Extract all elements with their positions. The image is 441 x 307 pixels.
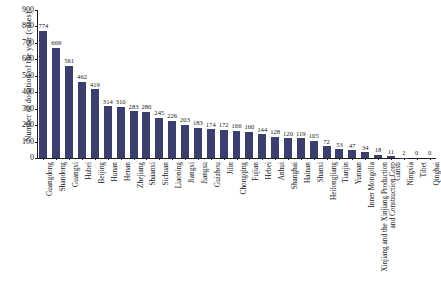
x-axis-tick-label: Chongqing: [240, 162, 248, 194]
bar-item: 105: [310, 10, 318, 158]
bar-rect: [181, 125, 189, 158]
bar-value-label: 172: [219, 122, 229, 129]
bar-rect: [310, 141, 318, 158]
bar-value-label: 2: [402, 150, 405, 157]
bar-item: 0: [426, 10, 434, 158]
bar-rect: [78, 82, 86, 158]
x-axis-tick-label: Anhui: [278, 162, 286, 180]
x-axis-tick-label: Inner Mongolia: [368, 162, 376, 208]
bar-item: 0: [413, 10, 421, 158]
x-axis-tick-label: Tianjin: [342, 162, 350, 183]
bar-item: 18: [374, 10, 382, 158]
x-axis-tick-mark: [134, 158, 135, 160]
bar-value-label: 11: [388, 149, 394, 156]
x-axis-tick-label: Heilongjiang: [330, 162, 338, 200]
bar-value-label: 160: [244, 124, 254, 131]
bar-item: 183: [194, 10, 202, 158]
bar-item: 53: [335, 10, 343, 158]
x-axis-tick-label: Shanxi: [317, 162, 325, 182]
x-axis-tick-label: Ningxia: [407, 162, 415, 186]
bar-value-label: 0: [428, 150, 431, 157]
bar-value-label: 203: [180, 117, 190, 124]
bar-rect: [91, 89, 99, 158]
x-axis-tick-label: Gansu: [394, 162, 402, 181]
x-axis-tick-label: Yunnan: [355, 162, 363, 184]
bar-item: 166: [233, 10, 241, 158]
bar-rect: [297, 138, 305, 158]
bar-rect: [65, 66, 73, 158]
x-axis-tick-mark: [327, 158, 328, 160]
y-axis-tick-label: 600: [22, 55, 34, 63]
bar-rect: [52, 48, 60, 158]
bar-value-label: 669: [51, 40, 61, 47]
bar-value-label: 34: [362, 145, 369, 152]
bar-item: 11: [387, 10, 395, 158]
bar-item: 203: [181, 10, 189, 158]
bar-value-label: 462: [77, 74, 87, 81]
bar-item: 128: [271, 10, 279, 158]
y-axis-tick-mark: [35, 142, 37, 143]
bar-item: 283: [130, 10, 138, 158]
x-axis-tick-label: Hubei: [85, 162, 93, 180]
bar-rect: [194, 128, 202, 158]
x-axis-tick-label: Shaanxi: [149, 162, 157, 186]
x-axis-tick-mark: [417, 158, 418, 160]
y-axis-tick-mark: [35, 43, 37, 44]
x-axis-tick-mark: [108, 158, 109, 160]
bar-value-label: 0: [415, 150, 418, 157]
bar-rect: [335, 149, 343, 158]
bar-rect: [271, 137, 279, 158]
x-axis-tick-label: Beijing: [98, 162, 106, 184]
plot-area: 0100200300400500600700800900 77466956146…: [37, 10, 436, 158]
x-axis-tick-mark: [211, 158, 212, 160]
x-axis-tick-label: Shanghai: [291, 162, 299, 189]
x-axis-tick-mark: [391, 158, 392, 160]
x-axis-tick-mark: [262, 158, 263, 160]
x-axis-tick-mark: [43, 158, 44, 160]
bar-rect: [117, 107, 125, 158]
y-axis-tick-label: 400: [22, 88, 34, 96]
bar-value-label: 128: [270, 129, 280, 136]
y-axis-tick-mark: [35, 59, 37, 60]
bar-value-label: 47: [349, 143, 356, 150]
bar-rect: [348, 150, 356, 158]
bar-rect: [323, 146, 331, 158]
bar-value-label: 774: [38, 23, 48, 30]
bar-item: 280: [142, 10, 150, 158]
y-axis-tick-mark: [35, 109, 37, 110]
bar-value-label: 174: [206, 122, 216, 129]
x-axis-tick-label: Liaoning: [175, 162, 183, 188]
x-axis-tick-label: Guangdong: [46, 162, 54, 196]
bar-rect: [155, 118, 163, 158]
bar-item: 314: [104, 10, 112, 158]
bar-value-label: 183: [193, 120, 203, 127]
bar-value-label: 144: [257, 127, 267, 134]
bar-item: 245: [155, 10, 163, 158]
bar-rect: [130, 111, 138, 158]
x-axis-tick-mark: [56, 158, 57, 160]
x-axis-tick-label: Tibet: [420, 162, 428, 177]
bar-item: 310: [117, 10, 125, 158]
y-axis-tick-mark: [35, 76, 37, 77]
bar-rect: [207, 129, 215, 158]
x-axis-tick-label: Sichuan: [162, 162, 170, 186]
x-axis-tick-mark: [224, 158, 225, 160]
bar-item: 462: [78, 10, 86, 158]
x-axis-tick-label: Guangxi: [72, 162, 80, 187]
bar-item: 120: [284, 10, 292, 158]
y-axis-tick-mark: [35, 26, 37, 27]
x-axis-tick-label: Hebei: [265, 162, 273, 179]
bar-item: 561: [65, 10, 73, 158]
bar-value-label: 314: [103, 99, 113, 106]
x-axis-tick-label: Jiangsu: [201, 162, 209, 184]
x-axis-tick-label: Shandong: [59, 162, 67, 191]
bar-rect: [39, 31, 47, 158]
bar-value-label: 18: [375, 147, 382, 154]
x-axis-tick-label: Guizhou: [214, 162, 222, 187]
x-axis-tick-mark: [249, 158, 250, 160]
x-axis-tick-label: Hunan: [111, 162, 119, 181]
x-axis-tick-mark: [146, 158, 147, 160]
x-axis-tick-mark: [185, 158, 186, 160]
bar-rect: [284, 138, 292, 158]
